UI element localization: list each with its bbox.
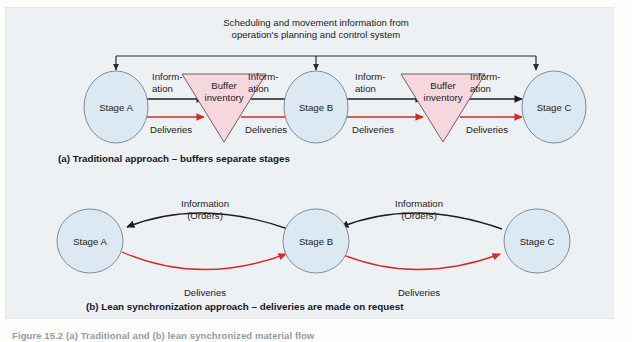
information-label-4-line2: ation	[470, 83, 491, 94]
stage-b-node-panel-b: Stage B	[283, 209, 349, 273]
bus-label-line2: operation's planning and control system	[232, 29, 401, 40]
delivery-label-b-c: Deliveries	[398, 287, 440, 298]
stage-a-label-panel-b: Stage A	[73, 236, 107, 247]
delivery-curve-a-b	[122, 252, 286, 270]
stage-c-node-panel-a: Stage C	[522, 71, 586, 143]
flow-label-group-3: Inform- ation Deliveries	[352, 71, 394, 135]
information-label-a-b-line1: Information	[181, 198, 229, 209]
delivery-curve-b-c	[336, 252, 500, 270]
bus-label-line1: Scheduling and movement information from	[223, 17, 409, 28]
stage-a-node-panel-b: Stage A	[57, 209, 123, 273]
information-label-1-line2: ation	[152, 83, 173, 94]
stage-a-label: Stage A	[99, 102, 133, 113]
stage-c-node-panel-b: Stage C	[504, 209, 570, 273]
figure-root: Scheduling and movement information from…	[0, 0, 632, 342]
link-b-c: Information (Orders) Deliveries	[336, 198, 502, 298]
information-label-4-line1: Inform-	[470, 71, 500, 82]
delivery-label-3: Deliveries	[352, 124, 394, 135]
information-label-2-line2: ation	[248, 83, 269, 94]
buffer-1-label-line2: inventory	[205, 92, 244, 103]
stage-a-node-panel-a: Stage A	[84, 71, 148, 143]
delivery-label-1: Deliveries	[150, 124, 192, 135]
flow-label-group-2: Inform- ation Deliveries	[245, 71, 287, 135]
flow-label-group-4: Inform- ation Deliveries	[466, 71, 508, 135]
stage-b-label: Stage B	[299, 102, 333, 113]
figure-bottom-caption: Figure 15.2 (a) Traditional and (b) lean…	[12, 330, 572, 341]
information-label-1-line1: Inform-	[152, 71, 182, 82]
panel-b-caption: (b) Lean synchronization approach – deli…	[86, 301, 404, 312]
stage-b-label-panel-b: Stage B	[299, 236, 333, 247]
panel-a: Scheduling and movement information from…	[58, 17, 586, 164]
information-label-3-line2: ation	[355, 83, 376, 94]
stage-c-label-panel-b: Stage C	[520, 236, 555, 247]
control-bus	[116, 56, 536, 70]
stage-b-node-panel-a: Stage B	[284, 71, 348, 143]
delivery-label-a-b: Deliveries	[184, 287, 226, 298]
information-label-3-line1: Inform-	[355, 71, 385, 82]
information-label-b-c-line2: (Orders)	[401, 210, 437, 221]
delivery-label-4: Deliveries	[466, 124, 508, 135]
link-a-b: Information (Orders) Deliveries	[122, 198, 288, 298]
information-label-b-c-line1: Information	[395, 198, 443, 209]
delivery-label-2: Deliveries	[245, 124, 287, 135]
information-label-2-line1: Inform-	[248, 71, 278, 82]
lean-synchronization-diagram: Scheduling and movement information from…	[0, 0, 632, 342]
buffer-2-label-line2: inventory	[424, 92, 463, 103]
stage-c-label: Stage C	[537, 102, 572, 113]
panel-a-caption: (a) Traditional approach – buffers separ…	[58, 153, 290, 164]
buffer-1-label-line1: Buffer	[211, 80, 237, 91]
information-label-a-b-line2: (Orders)	[187, 210, 223, 221]
buffer-2-label-line1: Buffer	[430, 80, 456, 91]
panel-b: Information (Orders) Deliveries Informat…	[57, 198, 570, 312]
